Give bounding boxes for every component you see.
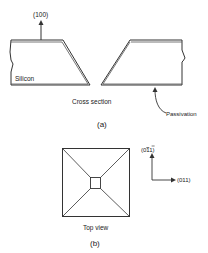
direction-100-label: (100): [33, 11, 48, 19]
passivation-label: Passivation: [166, 111, 197, 117]
axis-right-label: (011): [177, 177, 191, 183]
diagram-canvas: (100) Silicon Passivation Cross section …: [0, 0, 208, 253]
top-view-pit: [63, 149, 130, 217]
silicon-label: Silicon: [15, 75, 35, 82]
panel-a-label: (a): [97, 120, 107, 129]
cross-section-caption: Cross section: [72, 98, 112, 105]
crystal-axes: [150, 153, 177, 183]
axis-up-label: (011): [141, 147, 155, 153]
direction-100-arrow: [39, 20, 44, 40]
panel-b-label: (b): [90, 239, 100, 248]
top-view-caption: Top view: [83, 224, 109, 232]
right-silicon-piece: [101, 40, 185, 85]
passivation-arrow: [153, 87, 167, 113]
